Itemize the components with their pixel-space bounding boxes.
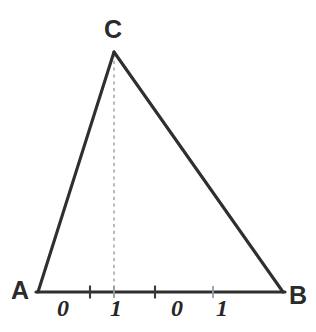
ruler-label-0-left: 0 xyxy=(57,296,69,320)
vertex-label-c: C xyxy=(104,17,122,42)
ruler-label-1-left: 1 xyxy=(110,296,122,320)
geometry-figure: A B C 0 1 0 1 xyxy=(0,0,316,332)
vertex-label-b: B xyxy=(289,283,307,308)
side-cb-line xyxy=(114,52,283,292)
ruler-label-1-right: 1 xyxy=(216,296,228,320)
vertex-label-a: A xyxy=(11,278,29,303)
side-ac-line xyxy=(38,52,114,292)
triangle-diagram-svg xyxy=(0,0,316,332)
ruler-label-0-right: 0 xyxy=(171,296,183,320)
